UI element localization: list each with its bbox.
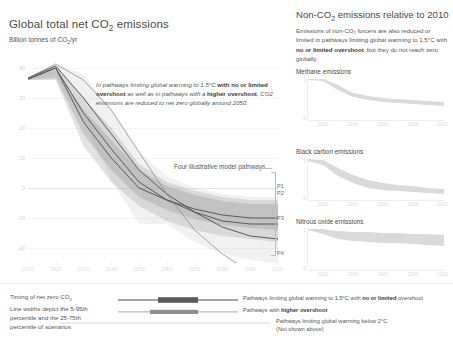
- methane-panel-title: Methane emissions: [296, 68, 351, 75]
- methane-x-tick-2060: 2060: [378, 122, 389, 127]
- legend-label-below-2c: Pathways limiting global warming below 2…: [276, 317, 451, 334]
- nitrous-oxide-band: [308, 229, 444, 246]
- x-tick-2100: 2100: [272, 266, 284, 272]
- pathway-bracket: [271, 172, 276, 256]
- nitrous-oxide-plot: 1 0 2020 2040 2060 2080 2100: [308, 228, 444, 270]
- y-axis-units-label: Billion tonnes of CO2/yr: [9, 36, 77, 45]
- pathway-label-P4: P4: [277, 250, 284, 256]
- legend-swatch-higher-overshoot: [118, 308, 238, 316]
- methane-x-tick-2080: 2080: [408, 122, 419, 127]
- x-tick-2090: 2090: [244, 266, 256, 272]
- legend-swatch-no-limited-overshoot: [118, 296, 238, 304]
- x-tick-2060: 2060: [161, 266, 173, 272]
- legend: Timing of net zero CO2Line widths depict…: [0, 288, 453, 348]
- methane-x-tick-2040: 2040: [348, 122, 359, 127]
- pathway-label-P2: P2: [277, 190, 284, 196]
- x-tick-2050: 2050: [133, 266, 145, 272]
- nitrous-oxide-panel-title: Nitrous oxide emissions: [296, 218, 363, 225]
- black-carbon-panel-title: Black carbon emissions: [296, 148, 363, 155]
- non-co2-panel: Non-CO2 emissions relative to 2010 Emiss…: [296, 0, 453, 288]
- y-tick-10: 10: [19, 155, 25, 161]
- methane-y-tick-1: 1: [303, 78, 306, 83]
- nitrous-oxide-y-tick-1: 1: [303, 228, 306, 233]
- legend-swatch-below-2c: [60, 320, 270, 326]
- pathway-label-P3: P3: [277, 215, 284, 221]
- x-tick-2030: 2030: [78, 266, 90, 272]
- y-tick-20: 20: [19, 125, 25, 131]
- methane-plot: 1 0 2020 2040 2060 2080 2100: [308, 78, 444, 120]
- page-title: Global total net CO2 emissions: [9, 18, 169, 33]
- black-carbon-y-tick-0: 0: [303, 196, 306, 201]
- black-carbon-x-tick-2040: 2040: [348, 202, 359, 207]
- y-tick-0: 0: [22, 185, 25, 191]
- black-carbon-plot: 1 0 2020 2040 2060 2080 2100: [308, 158, 444, 200]
- pathway-annotation: In pathways limiting global warming to 1…: [96, 80, 276, 107]
- non-co2-title: Non-CO2 emissions relative to 2010: [296, 9, 449, 22]
- illustrative-pathways-label: Four illustrative model pathways: [174, 163, 265, 170]
- bracket-stem: [258, 168, 272, 169]
- methane-x-tick-2020: 2020: [318, 122, 329, 127]
- pathway-label-P1: P1: [277, 183, 284, 189]
- x-tick-2010: 2010: [22, 266, 34, 272]
- black-carbon-x-tick-2080: 2080: [408, 202, 419, 207]
- methane-x-tick-2100: 2100: [437, 122, 448, 127]
- non-co2-description: Emissions of non-CO₂ forcers are also re…: [296, 26, 448, 63]
- x-tick-2080: 2080: [217, 266, 229, 272]
- black-carbon-x-tick-2020: 2020: [318, 202, 329, 207]
- black-carbon-y-tick-1: 1: [303, 158, 306, 163]
- x-tick-2020: 2020: [50, 266, 62, 272]
- nitrous-oxide-x-tick-2020: 2020: [318, 272, 329, 277]
- black-carbon-band: [308, 159, 444, 194]
- legend-label-higher-overshoot: Pathways with higher overshoot: [243, 306, 451, 314]
- global-co2-panel: Global total net CO2 emissions Billion t…: [0, 0, 292, 288]
- black-carbon-x-tick-2100: 2100: [437, 202, 448, 207]
- y-tick-minus20: -20: [18, 245, 26, 251]
- y-tick-40: 40: [19, 65, 25, 71]
- y-tick-30: 30: [19, 95, 25, 101]
- legend-label-no-limited-overshoot: Pathways limiting global warming to 1.5°…: [243, 294, 451, 302]
- x-tick-2040: 2040: [106, 266, 118, 272]
- methane-band: [308, 79, 444, 106]
- y-tick-minus10: -10: [18, 215, 26, 221]
- nitrous-oxide-x-tick-2040: 2040: [348, 272, 359, 277]
- figure-root: Global total net CO2 emissions Billion t…: [0, 0, 453, 348]
- nitrous-oxide-x-tick-2080: 2080: [408, 272, 419, 277]
- nitrous-oxide-x-tick-2100: 2100: [437, 272, 448, 277]
- x-tick-2070: 2070: [189, 266, 201, 272]
- nitrous-oxide-x-tick-2060: 2060: [378, 272, 389, 277]
- methane-y-tick-0: 0: [303, 116, 306, 121]
- black-carbon-x-tick-2060: 2060: [378, 202, 389, 207]
- nitrous-oxide-y-tick-0: 0: [303, 266, 306, 271]
- legend-divider: [0, 283, 453, 284]
